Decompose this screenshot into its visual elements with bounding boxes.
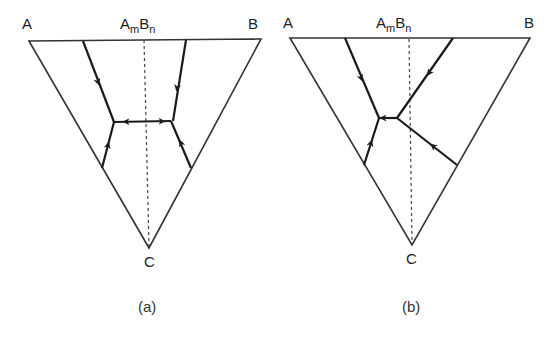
boundary-curves-a xyxy=(83,40,191,168)
caption-b: (b) xyxy=(402,299,420,314)
caption-a: (a) xyxy=(138,299,156,314)
vertex-label-b-panel-a: B xyxy=(248,16,258,31)
compound-sub1: m xyxy=(386,22,395,34)
vertex-label-c-panel-b: C xyxy=(406,251,417,266)
vertex-label-a-panel-b: A xyxy=(283,15,293,30)
vertex-label-a-panel-a: A xyxy=(22,16,32,31)
compound-label-panel-a: AmBn xyxy=(120,16,155,31)
compound-base1: A xyxy=(376,14,386,31)
compound-base2: B xyxy=(139,15,149,32)
compound-base1: A xyxy=(120,15,130,32)
compound-sub1: m xyxy=(130,23,139,35)
compound-label-panel-b: AmBn xyxy=(376,15,411,30)
compound-sub2: n xyxy=(405,22,411,34)
panel-b-diagram xyxy=(290,38,530,245)
compound-sub2: n xyxy=(149,23,155,35)
compound-base2: B xyxy=(395,14,405,31)
join-line-ambn-c-a xyxy=(144,40,149,246)
join-line-ambn-c-b xyxy=(409,39,412,243)
phase-diagram-figure xyxy=(0,0,553,337)
vertex-label-c-panel-a: C xyxy=(144,254,155,269)
vertex-label-b-panel-b: B xyxy=(524,15,534,30)
panel-a-diagram xyxy=(29,39,261,248)
